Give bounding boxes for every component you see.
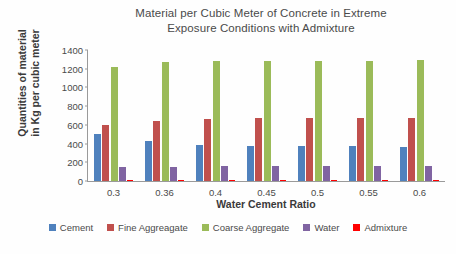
x-axis-tick-label: 0.55	[359, 187, 378, 198]
y-axis-tick-label: 1200	[62, 63, 83, 74]
bar-fine-aggreagate[interactable]	[357, 118, 364, 181]
legend-item-admixture[interactable]: Admixture	[353, 222, 407, 233]
x-axis-title: Water Cement Ratio	[87, 198, 445, 210]
bar-admixture[interactable]	[127, 180, 133, 181]
bar-cement[interactable]	[145, 141, 152, 181]
legend-swatch-icon	[353, 224, 360, 231]
bar-coarse-aggregate[interactable]	[162, 62, 169, 181]
bar-cement[interactable]	[298, 146, 305, 181]
chart-title-line-1: Material per Cubic Meter of Concrete in …	[96, 6, 426, 21]
plot-inner: 02004006008001000120014000.30.360.40.450…	[88, 50, 445, 181]
bar-coarse-aggregate[interactable]	[315, 61, 322, 181]
bar-cement[interactable]	[349, 146, 356, 181]
legend-swatch-icon	[202, 224, 209, 231]
legend-label: Fine Aggreagate	[118, 222, 188, 233]
legend-item-fine-aggreagate[interactable]: Fine Aggreagate	[107, 222, 188, 233]
bar-water[interactable]	[119, 167, 126, 181]
legend-label: Water	[314, 222, 339, 233]
chart-title: Material per Cubic Meter of Concrete in …	[96, 6, 426, 36]
legend-label: Coarse Aggregate	[213, 222, 290, 233]
bar-coarse-aggregate[interactable]	[417, 60, 424, 181]
bar-water[interactable]	[374, 166, 381, 181]
bar-fine-aggreagate[interactable]	[255, 118, 262, 181]
bar-water[interactable]	[323, 166, 330, 181]
chart-container: Material per Cubic Meter of Concrete in …	[0, 0, 456, 254]
y-axis-tick-label: 0	[78, 176, 83, 187]
y-axis-title: Quantities of material in Kg per cubic m…	[16, 13, 42, 153]
y-axis-tick-label: 400	[67, 138, 83, 149]
bar-water[interactable]	[425, 166, 432, 181]
bar-group: 0.6	[394, 50, 445, 181]
y-axis-tick-label: 1400	[62, 45, 83, 56]
bar-group: 0.5	[292, 50, 343, 181]
bar-cement[interactable]	[247, 146, 254, 181]
y-axis-tick-label: 1000	[62, 82, 83, 93]
legend-label: Admixture	[364, 222, 407, 233]
bar-cement[interactable]	[196, 145, 203, 181]
y-axis-tick-label: 800	[67, 101, 83, 112]
bar-water[interactable]	[170, 167, 177, 182]
legend-swatch-icon	[49, 224, 56, 231]
bar-fine-aggreagate[interactable]	[204, 119, 211, 181]
legend-item-coarse-aggregate[interactable]: Coarse Aggregate	[202, 222, 290, 233]
bar-admixture[interactable]	[331, 180, 337, 181]
bar-coarse-aggregate[interactable]	[111, 67, 118, 181]
x-axis-tick-label: 0.45	[257, 187, 276, 198]
bar-admixture[interactable]	[280, 180, 286, 181]
bar-water[interactable]	[221, 166, 228, 181]
bar-water[interactable]	[272, 166, 279, 181]
chart-title-line-2: Exposure Conditions with Admixture	[96, 21, 426, 36]
bar-cement[interactable]	[400, 147, 407, 181]
bar-cement[interactable]	[94, 134, 101, 181]
legend-label: Cement	[60, 222, 93, 233]
legend-item-water[interactable]: Water	[303, 222, 339, 233]
legend-item-cement[interactable]: Cement	[49, 222, 93, 233]
x-axis-tick-label: 0.4	[209, 187, 222, 198]
plot-area: 02004006008001000120014000.30.360.40.450…	[87, 50, 445, 182]
bar-coarse-aggregate[interactable]	[366, 61, 373, 181]
bar-admixture[interactable]	[433, 180, 439, 181]
bar-admixture[interactable]	[178, 180, 184, 181]
x-axis-tick-label: 0.3	[107, 187, 120, 198]
y-axis-title-line-1: Quantities of material	[16, 13, 29, 153]
bar-group: 0.45	[241, 50, 292, 181]
y-axis-title-line-2: in Kg per cubic meter	[29, 13, 42, 153]
x-axis-tick-label: 0.5	[311, 187, 324, 198]
bar-coarse-aggregate[interactable]	[213, 61, 220, 181]
bar-fine-aggreagate[interactable]	[306, 118, 313, 181]
x-axis-tick-label: 0.36	[155, 187, 174, 198]
bar-group: 0.4	[190, 50, 241, 181]
legend-swatch-icon	[303, 224, 310, 231]
bar-fine-aggreagate[interactable]	[408, 118, 415, 181]
bar-group: 0.3	[88, 50, 139, 181]
bar-admixture[interactable]	[382, 180, 388, 181]
bar-group: 0.36	[139, 50, 190, 181]
chart-legend: CementFine AggreagateCoarse AggregateWat…	[0, 222, 456, 233]
bar-admixture[interactable]	[229, 180, 235, 181]
y-axis-tick-label: 200	[67, 157, 83, 168]
legend-swatch-icon	[107, 224, 114, 231]
bar-fine-aggreagate[interactable]	[102, 125, 109, 181]
bar-group: 0.55	[343, 50, 394, 181]
bar-coarse-aggregate[interactable]	[264, 61, 271, 181]
bar-fine-aggreagate[interactable]	[153, 121, 160, 181]
x-axis-tick-label: 0.6	[413, 187, 426, 198]
y-axis-tick-label: 600	[67, 119, 83, 130]
